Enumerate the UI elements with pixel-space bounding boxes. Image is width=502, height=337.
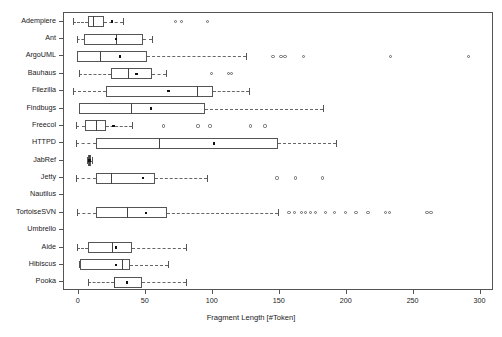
category-tick (59, 73, 63, 74)
plot-area (63, 12, 493, 290)
outlier-tortoisesvn (314, 211, 317, 214)
whisker-cap-filezilla (73, 88, 74, 95)
boxplot-chart: AdempiereAntArgoUMLBauhausFilezillaFindb… (0, 0, 502, 337)
outlier-argouml (302, 55, 305, 58)
whisker-cap-bauhaus (79, 70, 80, 77)
outlier-argouml (467, 55, 470, 58)
x-tick-label: 200 (326, 296, 366, 305)
whisker-findbugs (205, 109, 323, 110)
median-hibiscus (122, 259, 123, 270)
box-tortoisesvn (96, 207, 167, 218)
mean-marker-freecol (112, 125, 114, 127)
mean-marker-jabref (88, 159, 90, 161)
category-tick (59, 160, 63, 161)
whisker-ant (143, 39, 152, 40)
whisker-cap-filezilla (249, 88, 250, 95)
outlier-freecol (208, 124, 211, 127)
whisker-httpd (278, 143, 336, 144)
mean-marker-findbugs (150, 107, 152, 109)
x-tick-label: 0 (58, 296, 98, 305)
box-findbugs (79, 103, 205, 114)
category-label-umbrello: Umbrello (0, 225, 56, 233)
box-bauhaus (111, 68, 153, 79)
category-tick (59, 142, 63, 143)
whisker-httpd (76, 143, 96, 144)
whisker-cap-tortoisesvn (77, 209, 78, 216)
x-tick (212, 290, 213, 294)
whisker-cap-jetty (76, 175, 77, 182)
whisker-cap-adempiere (123, 18, 124, 25)
outlier-adempiere (180, 20, 183, 23)
median-bauhaus (128, 68, 129, 79)
whisker-tortoisesvn (77, 213, 96, 214)
mean-marker-tortoisesvn (145, 212, 147, 214)
category-label-nautilus: Nautilus (0, 190, 56, 198)
category-label-freecol: Freecol (0, 121, 56, 129)
category-tick (59, 38, 63, 39)
category-tick (59, 194, 63, 195)
outlier-tortoisesvn (425, 211, 428, 214)
category-label-jetty: Jetty (0, 173, 56, 181)
whisker-pooka (88, 282, 113, 283)
x-tick-label: 300 (460, 296, 500, 305)
category-tick (59, 125, 63, 126)
outlier-bauhaus (210, 72, 213, 75)
outlier-tortoisesvn (384, 211, 387, 214)
x-tick (346, 290, 347, 294)
outlier-tortoisesvn (324, 211, 327, 214)
outlier-jetty (294, 176, 297, 179)
box-adempiere (88, 16, 104, 27)
x-tick (145, 290, 146, 294)
whisker-filezilla (73, 91, 105, 92)
median-argouml (100, 51, 101, 62)
whisker-ant (77, 39, 84, 40)
category-label-tortoisesvn: TortoiseSVN (0, 208, 56, 216)
outlier-tortoisesvn (366, 211, 369, 214)
box-argouml (77, 51, 147, 62)
whisker-freecol (106, 126, 133, 127)
median-httpd (159, 138, 160, 149)
outlier-tortoisesvn (309, 211, 312, 214)
whisker-jetty (76, 178, 96, 179)
median-freecol (96, 120, 97, 131)
whisker-cap-aide (77, 244, 78, 251)
whisker-cap-hibiscus (168, 261, 169, 268)
x-tick-label: 150 (259, 296, 299, 305)
whisker-cap-tortoisesvn (278, 209, 279, 216)
whisker-aide (132, 248, 186, 249)
category-label-filezilla: Filezilla (0, 86, 56, 94)
median-aide (112, 242, 113, 253)
whisker-cap-httpd (336, 140, 337, 147)
mean-marker-adempiere (111, 20, 113, 22)
box-ant (84, 34, 143, 45)
category-label-pooka: Pooka (0, 277, 56, 285)
whisker-cap-pooka (186, 279, 187, 286)
category-tick (59, 90, 63, 91)
outlier-freecol (162, 124, 165, 127)
median-tortoisesvn (127, 207, 128, 218)
category-tick (59, 264, 63, 265)
outlier-freecol (263, 124, 266, 127)
category-tick (59, 177, 63, 178)
category-label-argouml: ArgoUML (0, 51, 56, 59)
box-httpd (96, 138, 278, 149)
category-tick (59, 212, 63, 213)
whisker-pooka (142, 282, 186, 283)
whisker-argouml (147, 56, 246, 57)
whisker-cap-findbugs (323, 105, 324, 112)
outlier-adempiere (206, 20, 209, 23)
category-label-findbugs: Findbugs (0, 104, 56, 112)
whisker-hibiscus (130, 265, 169, 266)
whisker-cap-pooka (88, 279, 89, 286)
mean-marker-ant (115, 38, 117, 40)
median-jetty (111, 173, 112, 184)
category-tick (59, 281, 63, 282)
outlier-tortoisesvn (388, 211, 391, 214)
x-tick-label: 100 (192, 296, 232, 305)
x-tick (78, 290, 79, 294)
outlier-tortoisesvn (293, 211, 296, 214)
category-label-httpd: HTTPD (0, 138, 56, 146)
x-tick-label: 50 (125, 296, 165, 305)
outlier-argouml (279, 55, 282, 58)
median-adempiere (93, 16, 94, 27)
